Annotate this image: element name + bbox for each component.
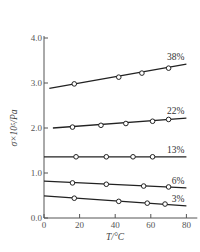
data-point-marker bbox=[116, 75, 121, 80]
series-3pct: 3% bbox=[44, 194, 186, 207]
data-point-marker bbox=[140, 71, 145, 76]
data-point-marker bbox=[166, 117, 171, 122]
series-line bbox=[44, 181, 186, 188]
series-label: 6% bbox=[172, 176, 185, 186]
series-13pct: 13% bbox=[44, 145, 186, 159]
y-tick-label: 3.0 bbox=[31, 78, 43, 88]
x-axis-title: T/°C bbox=[106, 232, 125, 242]
series-6pct: 6% bbox=[44, 176, 186, 189]
data-point-marker bbox=[131, 155, 136, 160]
x-tick-label: 60 bbox=[146, 220, 156, 230]
data-point-marker bbox=[116, 199, 121, 204]
x-tick-label: 0 bbox=[42, 220, 47, 230]
data-point-marker bbox=[141, 184, 146, 189]
series-22pct: 22% bbox=[53, 106, 187, 129]
y-axis-title: σ×10⁵/Pa bbox=[9, 109, 19, 146]
data-point-marker bbox=[70, 125, 75, 130]
data-point-marker bbox=[166, 185, 171, 190]
data-point-marker bbox=[72, 82, 77, 87]
data-point-marker bbox=[104, 155, 109, 160]
data-point-marker bbox=[104, 182, 109, 187]
y-tick-label: 2.0 bbox=[31, 123, 43, 133]
data-point-marker bbox=[145, 201, 150, 206]
x-tick-label: 80 bbox=[182, 220, 192, 230]
data-point-marker bbox=[70, 181, 75, 186]
data-point-marker bbox=[124, 121, 129, 126]
y-tick-label: 0.0 bbox=[31, 213, 43, 223]
series-label: 3% bbox=[172, 194, 185, 204]
x-tick-label: 20 bbox=[75, 220, 85, 230]
data-point-marker bbox=[150, 155, 155, 160]
data-point-marker bbox=[72, 196, 77, 201]
data-point-marker bbox=[99, 123, 104, 128]
series-label: 13% bbox=[167, 145, 185, 155]
y-tick-label: 4.0 bbox=[31, 33, 43, 43]
y-tick-label: 1.0 bbox=[31, 168, 43, 178]
series-38pct: 38% bbox=[49, 52, 186, 88]
data-point-marker bbox=[163, 202, 168, 207]
series-label: 38% bbox=[167, 52, 185, 62]
data-point-marker bbox=[166, 66, 171, 71]
data-point-marker bbox=[150, 119, 155, 124]
series-layer: 38%22%13%6%3% bbox=[44, 52, 186, 206]
line-chart: 0.01.02.03.04.0020406080 38%22%13%6%3% T… bbox=[0, 0, 200, 252]
data-point-marker bbox=[74, 155, 79, 160]
x-tick-label: 40 bbox=[111, 220, 121, 230]
series-label: 22% bbox=[167, 106, 185, 116]
